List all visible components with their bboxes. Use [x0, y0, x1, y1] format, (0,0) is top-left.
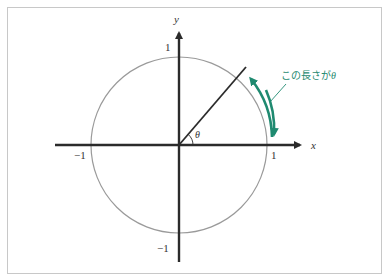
y-axis-label: y	[174, 14, 179, 25]
annotation-theta: θ	[331, 70, 336, 81]
y-tick-pos: 1	[165, 42, 171, 53]
arc-length-annotation: この長さがθ	[281, 71, 336, 81]
angle-ray	[179, 67, 246, 145]
x-axis-label: x	[311, 140, 316, 151]
x-tick-pos: 1	[271, 150, 277, 161]
y-tick-neg: −1	[157, 243, 169, 254]
arc-length-arrow	[251, 79, 272, 137]
angle-theta-label: θ	[195, 130, 200, 140]
x-tick-neg: −1	[74, 150, 86, 161]
angle-arc	[188, 135, 193, 145]
annotation-leader	[270, 84, 286, 102]
annotation-text: この長さが	[281, 70, 331, 81]
unit-circle-diagram	[0, 0, 388, 280]
